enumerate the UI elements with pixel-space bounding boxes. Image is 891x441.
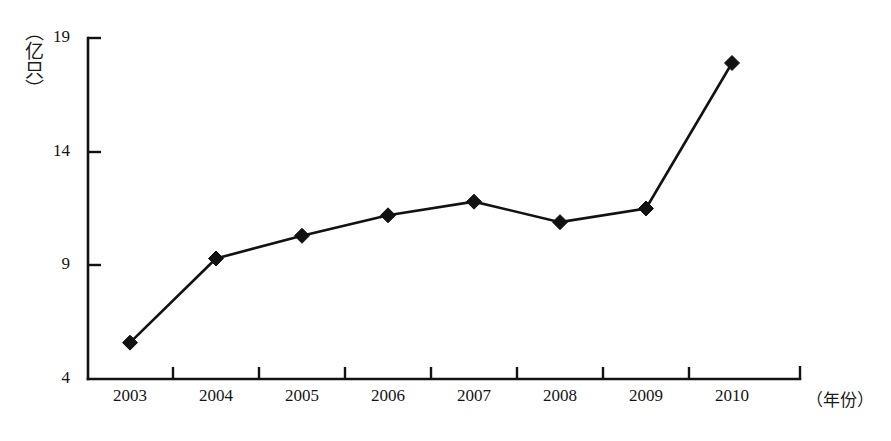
series-line xyxy=(130,63,732,343)
line-chart: （亿只） 19 14 9 4 2003 2004 2005 2006 2007 … xyxy=(0,0,891,441)
data-point-2009 xyxy=(639,201,654,216)
data-point-2010 xyxy=(725,56,740,71)
data-point-2006 xyxy=(381,208,396,223)
data-point-2007 xyxy=(467,194,482,209)
data-series-group xyxy=(123,56,740,351)
chart-plot-area xyxy=(0,0,891,441)
axis-group xyxy=(88,38,800,379)
data-point-2008 xyxy=(553,215,568,230)
data-point-2005 xyxy=(295,228,310,243)
series-markers xyxy=(123,56,740,351)
